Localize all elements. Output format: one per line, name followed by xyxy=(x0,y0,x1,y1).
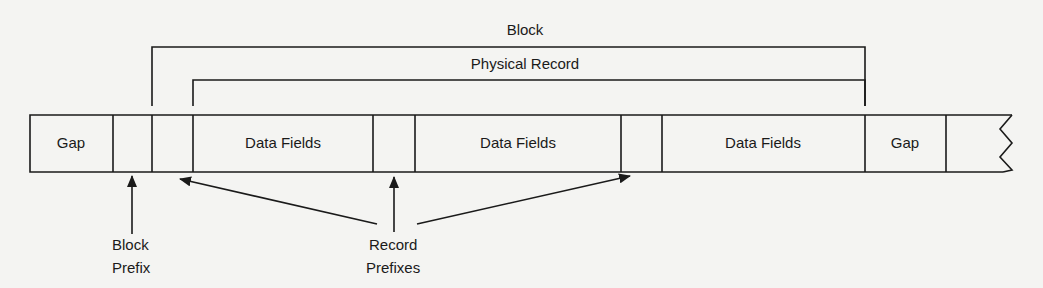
record-prefix-arrow-1 xyxy=(180,179,377,224)
record-prefixes-line-2: Prefixes xyxy=(366,256,420,279)
block-prefix-line-1: Block xyxy=(112,233,150,256)
record-prefixes-annotation: Record Prefixes xyxy=(366,233,420,279)
segment-gap-1: Gap xyxy=(57,134,85,152)
physical-record-label: Physical Record xyxy=(471,55,579,73)
segment-gap-2: Gap xyxy=(891,134,919,152)
segment-data-fields-2: Data Fields xyxy=(480,134,556,152)
break-zigzag-icon xyxy=(1000,115,1012,172)
record-prefix-arrow-3 xyxy=(417,176,630,224)
record-prefixes-line-1: Record xyxy=(366,233,420,256)
physical-record-bracket xyxy=(193,80,865,106)
segment-data-fields-1: Data Fields xyxy=(245,134,321,152)
segment-data-fields-3: Data Fields xyxy=(725,134,801,152)
block-prefix-annotation: Block Prefix xyxy=(112,233,150,279)
block-label: Block xyxy=(507,21,544,39)
block-prefix-line-2: Prefix xyxy=(112,256,150,279)
